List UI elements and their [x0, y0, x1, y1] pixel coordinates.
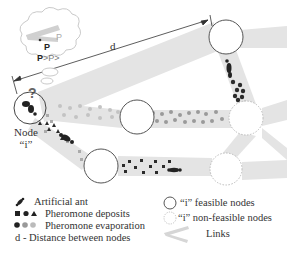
legend-deposit-icon — [15, 211, 37, 216]
feasible-node-top — [209, 20, 243, 54]
legend-nonfeasible-nodes: “i” non-feasible nodes — [178, 212, 272, 223]
legend-pheromone-deposits: Pheromone deposits — [45, 208, 130, 219]
ant-icon-node-i — [22, 101, 37, 116]
legend-pheromone-evaporation: Pheromone evaporation — [45, 220, 145, 231]
legend-feasible-node-icon — [164, 197, 176, 209]
legend-evaporation-icon — [14, 222, 36, 228]
legend-links: Links — [206, 228, 230, 239]
bubble-comparison: P>P> — [37, 53, 60, 63]
node-i-label-line1: Node — [6, 126, 46, 138]
legend-distance: d - Distance between nodes — [15, 232, 130, 243]
bubble-p-gray: P — [56, 32, 62, 42]
nonfeasible-node-lower-right — [210, 153, 242, 185]
nonfeasible-node-right — [229, 101, 263, 135]
legend-link-icon — [164, 226, 189, 243]
legend-ant-icon — [16, 198, 25, 207]
distance-label: d — [110, 40, 116, 52]
feasible-node-middle — [120, 100, 154, 134]
bubble-p-bold: P — [44, 42, 50, 52]
node-i-label: Node “i” — [6, 126, 46, 150]
legend-feasible-nodes: “i” feasible nodes — [180, 197, 255, 208]
ant-icon-bottom — [167, 168, 182, 172]
legend-artificial-ant: Artificial ant — [34, 196, 88, 207]
ant-colony-diagram: P P P>P> d ? — [0, 0, 287, 266]
thought-bubble — [20, 7, 81, 84]
feasible-node-lower — [84, 149, 118, 183]
node-i-label-line2: “i” — [6, 138, 46, 150]
legend-nonfeasible-node-icon — [164, 212, 176, 224]
